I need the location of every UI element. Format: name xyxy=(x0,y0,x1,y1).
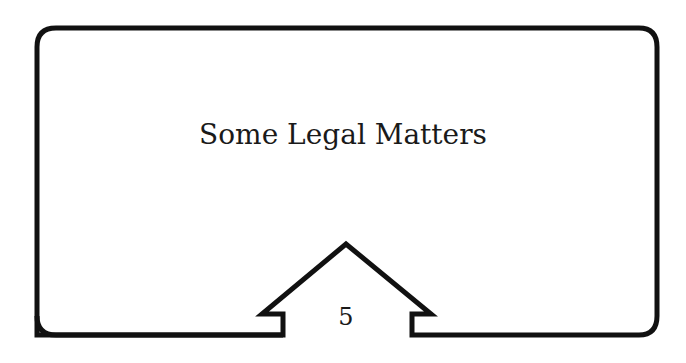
section-title: Some Legal Matters xyxy=(0,118,686,151)
page-number: 5 xyxy=(296,303,396,331)
frame-outline xyxy=(37,28,657,335)
frame-bottom-left xyxy=(37,316,283,335)
